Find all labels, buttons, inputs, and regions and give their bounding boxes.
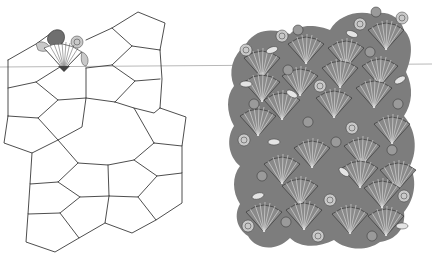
scallop-shell-sample [36,30,88,72]
shell-tessellation [228,7,416,249]
pentagon-tiling-outline [4,12,186,252]
tessellation-figure [0,0,432,259]
